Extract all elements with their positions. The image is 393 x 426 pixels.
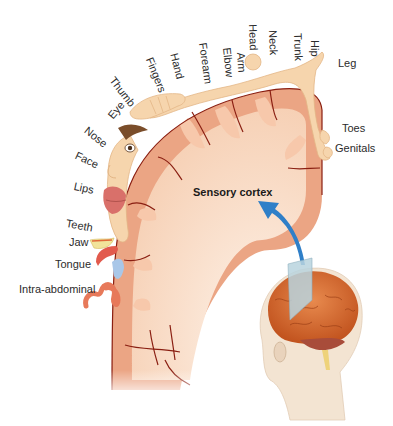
label-neck: Neck	[267, 30, 279, 55]
label-elbow: Elbow	[221, 47, 235, 78]
label-trunk: Trunk	[292, 33, 304, 61]
label-genitals: Genitals	[335, 143, 375, 154]
label-leg: Leg	[338, 58, 356, 69]
label-hip: Hip	[309, 40, 320, 57]
label-intra-abdominal: Intra-abdominal	[19, 284, 95, 295]
diagram-canvas	[0, 0, 393, 426]
label-head: Head	[247, 24, 259, 51]
diagram-title: Sensory cortex	[193, 186, 272, 198]
label-jaw: Jaw	[69, 237, 89, 248]
label-arm: Arm	[235, 52, 247, 73]
label-toes: Toes	[342, 123, 365, 134]
sensory-homunculus-diagram: Sensory cortex Thumb Fingers Hand Forear…	[0, 0, 393, 426]
label-tongue: Tongue	[55, 259, 91, 270]
